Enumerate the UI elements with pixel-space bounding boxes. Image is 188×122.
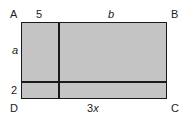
top-right-length-label: b <box>108 9 114 20</box>
vertical-divider <box>58 22 60 99</box>
vertex-a-label: A <box>10 9 17 20</box>
vertex-d-label: D <box>10 103 18 114</box>
horizontal-divider <box>21 81 167 83</box>
left-top-length-label: a <box>12 45 18 56</box>
vertex-b-label: B <box>171 9 178 20</box>
top-left-length-label: 5 <box>36 9 42 20</box>
left-bottom-length-label: 2 <box>11 85 17 96</box>
bottom-length-var: x <box>93 102 99 114</box>
rectangle-abcd <box>21 22 167 99</box>
bottom-length-label: 3x <box>87 103 99 114</box>
vertex-c-label: C <box>171 103 179 114</box>
